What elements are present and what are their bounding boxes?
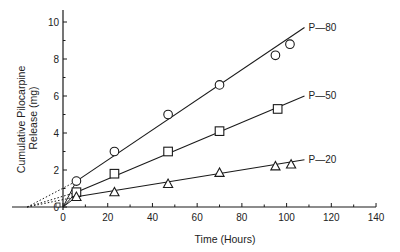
x-tick-label: 100 bbox=[278, 212, 295, 223]
triangle-marker bbox=[215, 168, 224, 176]
release-chart: 0204060801001201400246810 P—80P—50P—20 T… bbox=[0, 0, 400, 252]
y-tick-label: 4 bbox=[53, 128, 59, 139]
fit-line bbox=[76, 28, 304, 182]
x-axis-title: Time (Hours) bbox=[195, 233, 256, 245]
y-tick-label: 10 bbox=[48, 17, 60, 28]
circle-marker bbox=[271, 51, 280, 60]
series-label: P—80 bbox=[308, 22, 336, 33]
x-tick-label: 140 bbox=[368, 212, 385, 223]
square-marker bbox=[215, 127, 224, 136]
x-tick-label: 80 bbox=[236, 212, 248, 223]
series-label: P—20 bbox=[308, 154, 336, 165]
series-label: P—50 bbox=[308, 90, 336, 101]
axes: 0204060801001201400246810 bbox=[12, 10, 385, 223]
x-tick-label: 0 bbox=[60, 212, 66, 223]
y-axis-title-line1: Cumulative Pilocarpine bbox=[15, 66, 27, 174]
triangle-marker bbox=[271, 162, 280, 170]
square-marker bbox=[273, 105, 282, 114]
circle-marker bbox=[215, 81, 224, 90]
circle-marker bbox=[110, 147, 119, 156]
series-square: P—50 bbox=[27, 90, 336, 207]
triangle-marker bbox=[163, 179, 172, 187]
x-tick-label: 20 bbox=[102, 212, 114, 223]
square-marker bbox=[164, 147, 173, 156]
origin-marker bbox=[56, 203, 60, 207]
circle-marker bbox=[164, 110, 173, 119]
x-tick-label: 40 bbox=[147, 212, 159, 223]
circle-marker bbox=[72, 177, 81, 186]
y-tick-label: 6 bbox=[53, 91, 59, 102]
extrapolation-line bbox=[27, 181, 76, 207]
x-tick-label: 120 bbox=[323, 212, 340, 223]
y-axis-title: Cumulative Pilocarpine Release (mg) bbox=[15, 63, 39, 173]
triangle-marker bbox=[286, 160, 295, 168]
x-tick-label: 60 bbox=[192, 212, 204, 223]
circle-marker bbox=[286, 40, 295, 49]
series-group: P—80P—50P—20 bbox=[27, 22, 336, 207]
y-tick-label: 8 bbox=[53, 54, 59, 65]
y-axis-title-line2: Release (mg) bbox=[27, 86, 39, 149]
y-tick-label: 2 bbox=[53, 165, 59, 176]
square-marker bbox=[110, 169, 119, 178]
